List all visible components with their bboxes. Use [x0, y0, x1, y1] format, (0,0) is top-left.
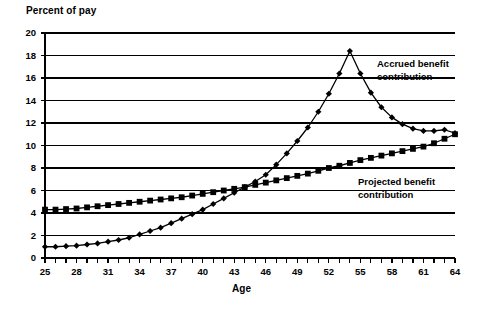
series-label-projected-line1: Projected benefit	[358, 176, 435, 189]
data-point-square	[305, 171, 311, 177]
data-point-square	[431, 140, 437, 146]
x-tick-label: 55	[348, 266, 372, 277]
data-point-square	[189, 193, 195, 199]
series-label-projected-line2: contribution	[358, 189, 435, 202]
data-point-diamond	[399, 121, 405, 127]
data-point-square	[273, 177, 279, 183]
data-point-square	[200, 191, 206, 197]
x-tick-label: 64	[443, 266, 467, 277]
y-axis-title: Percent of pay	[26, 5, 96, 16]
y-tick-label: 18	[14, 50, 36, 61]
data-point-square	[84, 204, 90, 210]
data-point-square	[452, 131, 458, 137]
data-point-square	[179, 194, 185, 200]
data-point-square	[357, 157, 363, 163]
data-point-square	[410, 146, 416, 152]
data-point-diamond	[137, 231, 143, 237]
data-point-diamond	[210, 201, 216, 207]
data-point-diamond	[158, 225, 164, 231]
data-point-square	[294, 173, 300, 179]
data-point-diamond	[168, 220, 174, 226]
data-point-square	[263, 180, 269, 186]
y-tick-label: 8	[14, 162, 36, 173]
data-point-diamond	[84, 241, 90, 247]
y-tick-label: 20	[14, 27, 36, 38]
data-point-square	[126, 200, 132, 206]
data-point-square	[252, 182, 258, 188]
data-point-square	[147, 198, 153, 204]
data-point-diamond	[357, 70, 363, 76]
data-point-diamond	[189, 211, 195, 217]
data-point-square	[221, 188, 227, 194]
x-tick-label: 46	[254, 266, 278, 277]
x-tick-label: 31	[96, 266, 120, 277]
data-point-square	[242, 184, 248, 190]
y-tick-label: 0	[14, 252, 36, 263]
data-point-square	[210, 189, 216, 195]
y-tick-label: 6	[14, 185, 36, 196]
data-point-square	[168, 195, 174, 201]
data-point-square	[315, 168, 321, 174]
data-point-square	[284, 175, 290, 181]
y-tick-label: 10	[14, 140, 36, 151]
y-tick-label: 16	[14, 72, 36, 83]
x-tick-label: 58	[380, 266, 404, 277]
data-point-diamond	[326, 91, 332, 97]
x-tick-label: 25	[33, 266, 57, 277]
data-point-diamond	[147, 228, 153, 234]
data-point-diamond	[73, 243, 79, 249]
x-tick-label: 61	[411, 266, 435, 277]
data-point-diamond	[441, 127, 447, 133]
y-tick-label: 2	[14, 230, 36, 241]
series-label-projected-benefit: Projected benefit contribution	[358, 176, 435, 201]
x-tick-label: 49	[285, 266, 309, 277]
data-point-diamond	[94, 240, 100, 246]
x-tick-label: 28	[65, 266, 89, 277]
data-point-square	[442, 136, 448, 142]
data-point-square	[53, 207, 59, 213]
data-point-diamond	[410, 126, 416, 132]
data-point-diamond	[420, 128, 426, 134]
data-point-diamond	[431, 128, 437, 134]
data-point-diamond	[200, 207, 206, 213]
data-point-square	[42, 207, 48, 213]
data-point-square	[158, 197, 164, 203]
data-point-square	[116, 201, 122, 207]
x-tick-label: 52	[317, 266, 341, 277]
data-point-square	[326, 165, 332, 171]
data-point-square	[137, 199, 143, 205]
y-tick-label: 12	[14, 117, 36, 128]
x-axis-title: Age	[0, 283, 483, 294]
series-label-accrued-line1: Accrued benefit	[377, 58, 449, 71]
data-point-square	[336, 163, 342, 169]
data-point-square	[63, 206, 69, 212]
data-point-square	[95, 203, 101, 209]
data-point-square	[368, 155, 374, 161]
data-point-diamond	[221, 195, 227, 201]
x-tick-label: 34	[128, 266, 152, 277]
y-tick-label: 4	[14, 207, 36, 218]
data-point-square	[105, 202, 111, 208]
data-point-diamond	[63, 243, 69, 249]
data-point-square	[421, 144, 427, 150]
series-label-accrued-benefit: Accrued benefit contribution	[377, 58, 449, 83]
x-tick-label: 40	[191, 266, 215, 277]
data-point-diamond	[115, 237, 121, 243]
data-point-square	[379, 153, 385, 159]
data-point-diamond	[52, 244, 58, 250]
data-point-diamond	[179, 216, 185, 222]
data-point-square	[231, 186, 237, 192]
data-point-square	[74, 206, 80, 212]
chart-container: Percent of pay 02468101214161820 2528313…	[0, 0, 483, 313]
data-point-square	[400, 148, 406, 154]
x-tick-label: 37	[159, 266, 183, 277]
data-point-square	[347, 160, 353, 166]
data-point-diamond	[42, 244, 48, 250]
x-tick-label: 43	[222, 266, 246, 277]
series-label-accrued-line2: contribution	[377, 71, 449, 84]
y-tick-label: 14	[14, 95, 36, 106]
data-point-diamond	[347, 48, 353, 54]
data-point-diamond	[336, 70, 342, 76]
data-point-square	[389, 150, 395, 156]
data-point-diamond	[105, 239, 111, 245]
